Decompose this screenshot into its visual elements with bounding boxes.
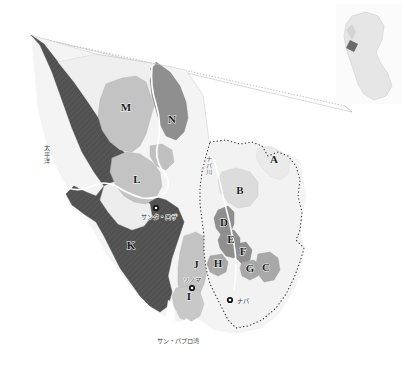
region-label-H: H: [214, 257, 223, 269]
water-label-napa-river: ナパ川: [206, 156, 213, 176]
water-label-pacific-ocean: 太平洋: [44, 144, 51, 165]
region-label-B: B: [236, 184, 244, 196]
region-label-J: J: [193, 258, 199, 270]
region-label-F: F: [240, 245, 247, 257]
city-marker-sonoma[interactable]: [189, 285, 195, 291]
region-label-C: C: [262, 261, 270, 273]
region-label-I: I: [187, 290, 191, 302]
city-label-sonoma: ソノマ: [183, 276, 201, 283]
city-label-napa: ナパ: [237, 297, 249, 304]
city-marker-napa[interactable]: [227, 297, 233, 303]
region-label-N: N: [168, 113, 176, 125]
region-label-K: K: [127, 239, 136, 251]
region-label-D: D: [220, 216, 228, 228]
map-canvas: A B C D E F G H I J K L M N サンタ・ロザ: [0, 0, 404, 365]
region-label-E: E: [227, 233, 234, 245]
region-label-L: L: [133, 173, 140, 185]
region-label-G: G: [246, 262, 255, 274]
region-label-A: A: [270, 153, 278, 165]
region-label-M: M: [121, 101, 132, 113]
city-marker-santa-rosa[interactable]: [153, 205, 159, 211]
california-inset: [336, 4, 402, 104]
water-label-san-pablo-bay: サン・パブロ湾: [157, 337, 199, 345]
map-root: A B C D E F G H I J K L M N サンタ・ロザ: [0, 0, 404, 365]
city-label-santa-rosa: サンタ・ロザ: [141, 213, 177, 221]
